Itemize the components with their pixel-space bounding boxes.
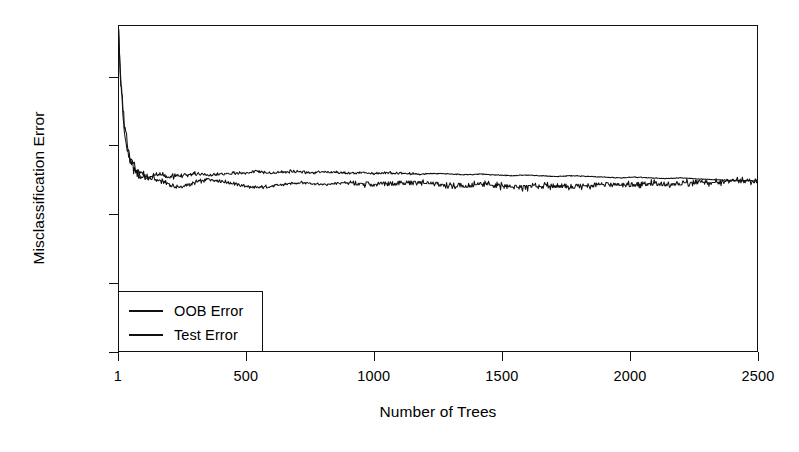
- legend-item-test-error: Test Error: [119, 322, 262, 348]
- x-tick-label: 2500: [741, 368, 774, 384]
- x-tick-mark: [246, 352, 247, 361]
- legend-item-oob-error: OOB Error: [119, 298, 262, 324]
- x-tick-label: 1000: [357, 368, 390, 384]
- x-tick-mark: [502, 352, 503, 361]
- x-tick-label: 1: [114, 368, 122, 384]
- legend-label-test: Test Error: [174, 327, 238, 343]
- y-tick-mark: [109, 352, 118, 353]
- legend-label-oob: OOB Error: [174, 303, 243, 319]
- y-tick-mark: [109, 77, 118, 78]
- series-line-oob-error: [118, 30, 758, 192]
- x-tick-label: 1500: [485, 368, 518, 384]
- x-tick-mark: [118, 352, 119, 361]
- x-tick-label: 2000: [613, 368, 646, 384]
- y-tick-mark: [109, 145, 118, 146]
- x-tick-mark: [630, 352, 631, 361]
- x-tick-label: 500: [233, 368, 258, 384]
- x-axis-title: Number of Trees: [380, 403, 497, 421]
- y-axis-title: Misclassification Error: [30, 111, 48, 264]
- x-tick-mark: [374, 352, 375, 361]
- chart-legend: OOB Error Test Error: [118, 291, 263, 352]
- y-tick-mark: [109, 283, 118, 284]
- legend-line-icon-test: [129, 334, 163, 336]
- legend-line-icon-oob: [129, 310, 163, 312]
- x-tick-mark: [758, 352, 759, 361]
- chart-figure: Misclassification Error 0.000.020.040.06…: [0, 0, 799, 452]
- y-tick-mark: [109, 214, 118, 215]
- series-line-test-error: [118, 25, 758, 181]
- y-axis: Misclassification Error 0.000.020.040.06…: [0, 0, 118, 452]
